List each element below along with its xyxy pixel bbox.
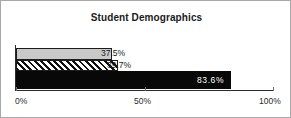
x-axis-tick-0	[16, 87, 17, 91]
bar-value-label-3: 83.6%	[197, 76, 224, 85]
bar-series-2	[16, 60, 118, 71]
x-axis-tick-label-0: 0%	[15, 97, 27, 106]
bar-value-label-2: 39.7%	[107, 61, 131, 70]
bar-series-1	[16, 48, 112, 60]
chart-title: Student Demographics	[1, 12, 291, 23]
bar-value-label-1: 37.5%	[101, 49, 125, 58]
plot-area	[16, 45, 273, 90]
x-axis-tick-label-100: 100%	[259, 97, 281, 106]
x-axis-tick-label-50: 50%	[134, 97, 151, 106]
chart-figure: Student Demographics 37.5% 39.7% 83.6% 0…	[0, 0, 291, 118]
x-axis-tick-50	[145, 87, 146, 91]
x-axis-tick-100	[273, 87, 274, 91]
